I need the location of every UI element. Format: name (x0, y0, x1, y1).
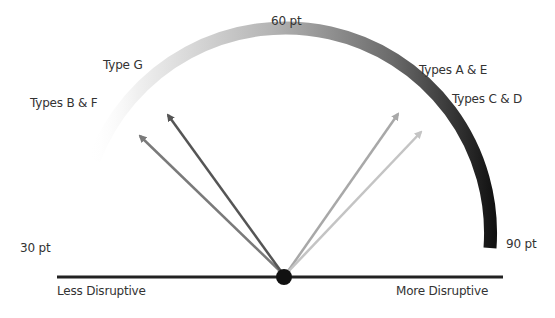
gauge-arc (94, 28, 491, 248)
scale-label-90pt: 90 pt (506, 237, 536, 251)
label-type-g: Type G (103, 58, 142, 72)
disruption-gauge-diagram (0, 0, 555, 318)
axis-label-less-disruptive: Less Disruptive (57, 284, 146, 298)
pivot-point (276, 269, 292, 285)
scale-label-30pt: 30 pt (20, 241, 50, 255)
arrow-types-b-f (140, 136, 283, 274)
arrow-types-c-d (286, 132, 421, 274)
arrow-type-g (168, 115, 283, 274)
label-types-a-e: Types A & E (419, 63, 487, 77)
scale-label-60pt: 60 pt (271, 14, 301, 28)
label-types-c-d: Types C & D (452, 92, 522, 106)
axis-label-more-disruptive: More Disruptive (396, 284, 488, 298)
label-types-b-f: Types B & F (30, 96, 98, 110)
arrow-types-a-e (286, 114, 398, 274)
